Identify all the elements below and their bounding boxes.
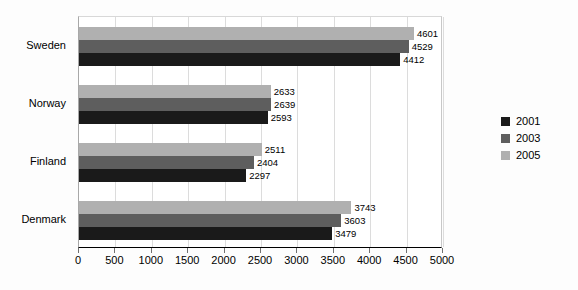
bar-norway-2003	[79, 98, 271, 111]
legend-item-2001: 2001	[501, 114, 563, 129]
x-tick-label: 4000	[357, 254, 381, 266]
x-tick	[333, 248, 334, 253]
x-tick-label: 500	[105, 254, 123, 266]
x-tick-label: 2500	[248, 254, 272, 266]
bar-row: 4412	[79, 53, 443, 66]
legend-label: 2001	[516, 116, 540, 127]
category-label-finland: Finland	[30, 155, 66, 167]
bar-row: 4529	[79, 40, 443, 53]
x-tick	[406, 248, 407, 253]
x-tick-label: 3500	[321, 254, 345, 266]
legend-item-2005: 2005	[501, 148, 563, 163]
x-tick	[442, 248, 443, 253]
bar-denmark-2003	[79, 214, 341, 227]
bar-row: 3479	[79, 227, 443, 240]
bar-row: 4601	[79, 27, 443, 40]
x-tick	[224, 248, 225, 253]
bar-norway-2005	[79, 85, 271, 98]
x-tick-label: 0	[75, 254, 81, 266]
bar-finland-2001	[79, 169, 246, 182]
x-tick-label: 1500	[175, 254, 199, 266]
bar-sweden-2005	[79, 27, 414, 40]
bar-value-label: 3603	[341, 215, 365, 226]
bar-value-label: 4412	[400, 54, 424, 65]
legend-swatch-icon	[501, 117, 510, 126]
bar-sweden-2003	[79, 40, 409, 53]
x-tick	[187, 248, 188, 253]
category-label-sweden: Sweden	[26, 39, 66, 51]
bar-value-label: 2593	[268, 112, 292, 123]
x-tick	[296, 248, 297, 253]
gridline	[443, 17, 444, 247]
x-tick	[369, 248, 370, 253]
bar-row: 2593	[79, 111, 443, 124]
bar-value-label: 2297	[246, 170, 270, 181]
x-tick	[151, 248, 152, 253]
bar-chart: 4601452944122633263925932511240422973743…	[0, 0, 578, 290]
bar-row: 2404	[79, 156, 443, 169]
bar-value-label: 3479	[332, 228, 356, 239]
bar-finland-2003	[79, 156, 254, 169]
bar-denmark-2001	[79, 227, 332, 240]
plot-area: 4601452944122633263925932511240422973743…	[78, 16, 442, 248]
bar-value-label: 4601	[414, 28, 438, 39]
bar-value-label: 3743	[351, 202, 375, 213]
x-tick-label: 3000	[284, 254, 308, 266]
category-axis-labels: SwedenNorwayFinlandDenmark	[0, 16, 72, 248]
bar-row: 3743	[79, 201, 443, 214]
legend: 200120032005	[501, 114, 563, 165]
bar-row: 2297	[79, 169, 443, 182]
bar-norway-2001	[79, 111, 268, 124]
bar-row: 3603	[79, 214, 443, 227]
bar-sweden-2001	[79, 53, 400, 66]
x-tick-label: 4500	[393, 254, 417, 266]
x-tick	[78, 248, 79, 253]
category-label-norway: Norway	[29, 97, 66, 109]
bar-denmark-2005	[79, 201, 351, 214]
x-tick-label: 1000	[139, 254, 163, 266]
category-label-denmark: Denmark	[21, 213, 66, 225]
x-axis-tick-labels: 0500100015002000250030003500400045005000	[0, 254, 578, 270]
bar-value-label: 2633	[271, 86, 295, 97]
bar-value-label: 2511	[262, 144, 285, 155]
bar-value-label: 4529	[409, 41, 433, 52]
bar-row: 2511	[79, 143, 443, 156]
bar-value-label: 2404	[254, 157, 278, 168]
legend-swatch-icon	[501, 134, 510, 143]
bar-finland-2005	[79, 143, 262, 156]
legend-label: 2003	[516, 133, 540, 144]
x-tick	[260, 248, 261, 253]
legend-label: 2005	[516, 150, 540, 161]
bar-row: 2639	[79, 98, 443, 111]
x-tick-label: 5000	[430, 254, 454, 266]
x-tick	[114, 248, 115, 253]
legend-item-2003: 2003	[501, 131, 563, 146]
x-tick-label: 2000	[211, 254, 235, 266]
bar-value-label: 2639	[271, 99, 295, 110]
bar-row: 2633	[79, 85, 443, 98]
legend-swatch-icon	[501, 151, 510, 160]
